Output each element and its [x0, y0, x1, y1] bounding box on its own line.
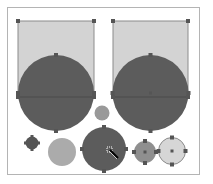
- left-large-circle-handle-bottom[interactable]: [54, 129, 58, 133]
- right-large-circle-handle-right[interactable]: [187, 91, 191, 95]
- left-large-circle-handle-top[interactable]: [54, 53, 58, 57]
- bottom-dark-circle-handle-bottom[interactable]: [102, 169, 106, 173]
- medium-gray-circle-handle-center[interactable]: [144, 151, 147, 154]
- left-large-circle[interactable]: [18, 55, 94, 131]
- small-dark-circle-handle-right[interactable]: [37, 142, 40, 145]
- right-circle-side-handle-r2[interactable]: [186, 95, 190, 99]
- medium-gray-circle-handle-top[interactable]: [143, 139, 147, 143]
- small-dark-circle[interactable]: [26, 137, 39, 150]
- left-circle-side-handle-r2[interactable]: [92, 95, 96, 99]
- right-large-circle-handle-left[interactable]: [111, 91, 115, 95]
- pale-outlined-circle-handle-bottom[interactable]: [170, 163, 174, 167]
- bottom-dark-circle-handle-right[interactable]: [124, 147, 128, 151]
- light-gray-circle[interactable]: [48, 138, 76, 166]
- left-large-circle-handle-right[interactable]: [92, 91, 96, 95]
- canvas-surface[interactable]: [0, 0, 213, 184]
- medium-gray-circle-handle-left[interactable]: [132, 150, 136, 154]
- small-dark-circle-handle-top[interactable]: [31, 135, 34, 138]
- pale-outlined-circle-handle-center[interactable]: [171, 150, 174, 153]
- bottom-dark-circle-handle-left[interactable]: [80, 147, 84, 151]
- bottom-dark-circle-handle-top[interactable]: [102, 125, 106, 129]
- right-rect-handle-tl[interactable]: [111, 19, 115, 23]
- right-large-circle-handle-top[interactable]: [149, 53, 153, 57]
- right-large-circle-handle-center[interactable]: [149, 92, 152, 95]
- bottom-dark-circle[interactable]: [82, 127, 126, 171]
- small-dark-circle-handle-left[interactable]: [24, 142, 27, 145]
- medium-gray-circle-handle-bottom[interactable]: [143, 161, 147, 165]
- small-center-circle[interactable]: [95, 106, 110, 121]
- right-rect-handle-tr[interactable]: [186, 19, 190, 23]
- right-circle-side-handle-l2[interactable]: [111, 95, 115, 99]
- right-large-circle-handle-bottom[interactable]: [149, 129, 153, 133]
- pale-outlined-circle-handle-right[interactable]: [184, 149, 188, 153]
- pale-outlined-circle-handle-left[interactable]: [157, 149, 161, 153]
- left-circle-side-handle-l2[interactable]: [16, 95, 20, 99]
- left-large-circle-handle-left[interactable]: [16, 91, 20, 95]
- pale-outlined-circle-handle-top[interactable]: [170, 136, 174, 140]
- small-dark-circle-handle-bottom[interactable]: [31, 148, 34, 151]
- drawing-canvas[interactable]: [0, 0, 213, 184]
- left-rect-handle-tr[interactable]: [92, 19, 96, 23]
- left-rect-handle-tl[interactable]: [16, 19, 20, 23]
